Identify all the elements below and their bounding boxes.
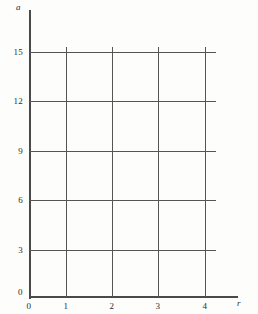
x-tick-label-4: 4 <box>198 301 212 311</box>
x-tick-label-2: 2 <box>105 301 119 311</box>
y-tick-label-15: 15 <box>3 47 23 57</box>
gridline-horizontal-15 <box>29 52 216 53</box>
x-axis-line <box>29 296 238 298</box>
gridline-horizontal-3 <box>29 250 216 251</box>
y-tick-label-3: 3 <box>3 245 23 255</box>
y-tick-label-12: 12 <box>3 96 23 106</box>
y-axis-line <box>29 10 31 299</box>
gridline-vertical-3 <box>158 47 159 297</box>
gridline-vertical-2 <box>112 47 113 297</box>
x-tick-label-3: 3 <box>151 301 165 311</box>
chart-figure: 15 12 9 6 3 0 0 1 2 3 4 a r <box>0 0 258 314</box>
gridline-horizontal-12 <box>29 101 216 102</box>
y-tick-label-0: 0 <box>18 287 23 297</box>
gridline-vertical-1 <box>66 47 67 297</box>
x-tick-label-1: 1 <box>59 301 73 311</box>
x-axis-label: r <box>237 298 241 308</box>
gridline-horizontal-9 <box>29 151 216 152</box>
gridline-vertical-4 <box>205 47 206 297</box>
y-axis-label: a <box>16 2 21 12</box>
x-tick-label-0: 0 <box>22 301 36 311</box>
y-tick-label-9: 9 <box>3 146 23 156</box>
y-tick-label-6: 6 <box>3 195 23 205</box>
gridline-horizontal-6 <box>29 200 216 201</box>
